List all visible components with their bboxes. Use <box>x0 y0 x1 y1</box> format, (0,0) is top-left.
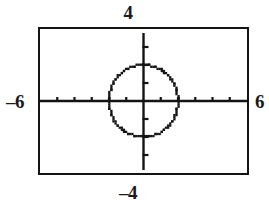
curve-point <box>148 135 150 137</box>
curve-point <box>169 124 171 126</box>
curve-point <box>144 135 146 137</box>
plot-viewing-window <box>38 27 249 175</box>
curve-point <box>171 80 173 82</box>
curve-point <box>142 64 144 66</box>
curve-point <box>167 74 169 76</box>
curve-point <box>121 127 123 129</box>
curve-point <box>152 66 154 68</box>
curve-point <box>177 103 179 105</box>
curve-point <box>112 80 114 82</box>
curve-point <box>171 78 173 80</box>
curve-point <box>117 74 119 76</box>
curve-point <box>175 108 177 110</box>
curve-point <box>112 120 114 122</box>
curve-point <box>154 66 156 68</box>
curve-point <box>110 85 112 87</box>
curve-point <box>159 133 161 135</box>
curve-point <box>156 68 158 70</box>
curve-point <box>146 64 148 66</box>
curve-point <box>135 64 137 66</box>
curve-point <box>161 70 163 72</box>
curve-point <box>140 64 142 66</box>
curve-point <box>108 95 110 97</box>
curve-point <box>148 64 150 66</box>
curve-point <box>175 114 177 116</box>
curve-point <box>173 114 175 116</box>
curve-point <box>110 110 112 112</box>
curve-point <box>175 112 177 114</box>
curve-point <box>175 91 177 93</box>
curve-point <box>108 97 110 99</box>
curve-point <box>163 70 165 72</box>
curve-point <box>154 133 156 135</box>
curve-point <box>117 124 119 126</box>
curve-point <box>159 68 161 70</box>
curve-point <box>175 110 177 112</box>
curve-point <box>131 66 133 68</box>
curve-point <box>161 68 163 70</box>
curve-point <box>140 135 142 137</box>
curve-point <box>173 116 175 118</box>
curve-point <box>119 74 121 76</box>
curve-point <box>129 133 131 135</box>
curve-point <box>167 124 169 126</box>
curve-point <box>175 89 177 91</box>
curve-point <box>129 66 131 68</box>
curve-point <box>173 118 175 120</box>
curve-point <box>171 120 173 122</box>
curve-point <box>165 127 167 129</box>
curve-point <box>114 122 116 124</box>
curve-point <box>138 64 140 66</box>
curve-point <box>156 133 158 135</box>
curve-point <box>150 66 152 68</box>
curve-point <box>167 127 169 129</box>
curve-point <box>108 99 110 101</box>
curve-point <box>144 64 146 66</box>
y-axis-min-label: –4 <box>0 183 269 202</box>
curve-point <box>123 70 125 72</box>
curve-point <box>169 122 171 124</box>
curve-point <box>125 131 127 133</box>
curve-point <box>163 72 165 74</box>
plot-svg <box>40 29 247 173</box>
curve-point <box>146 135 148 137</box>
curve-point <box>110 89 112 91</box>
curve-point <box>127 68 129 70</box>
curve-point <box>127 133 129 135</box>
curve-point <box>123 129 125 131</box>
curve-point <box>163 129 165 131</box>
curve-point <box>161 131 163 133</box>
curve-point <box>112 118 114 120</box>
curve-point <box>177 101 179 103</box>
curve-point <box>150 135 152 137</box>
curve-point <box>177 106 179 108</box>
curve-point <box>135 135 137 137</box>
curve-point <box>173 85 175 87</box>
curve-point <box>152 135 154 137</box>
x-axis-max-label: 6 <box>255 92 264 111</box>
curve-point <box>125 68 127 70</box>
curve-point <box>173 82 175 84</box>
curve-point <box>108 108 110 110</box>
curve-point <box>108 91 110 93</box>
curve-point <box>123 131 125 133</box>
curve-point <box>175 87 177 89</box>
curve-point <box>169 76 171 78</box>
curve-point <box>133 66 135 68</box>
curve-point <box>177 99 179 101</box>
curve-point <box>169 78 171 80</box>
curve-point <box>108 93 110 95</box>
curve-point <box>108 103 110 105</box>
curve-point <box>110 112 112 114</box>
curve-point <box>112 82 114 84</box>
calculator-graph-screenshot: 4 –4 –6 6 <box>0 0 269 204</box>
x-axis-min-label: –6 <box>6 92 24 111</box>
plot-surface <box>40 29 247 173</box>
curve-point <box>177 97 179 99</box>
curve-point <box>117 76 119 78</box>
curve-point <box>119 127 121 129</box>
curve-point <box>108 101 110 103</box>
curve-point <box>114 120 116 122</box>
curve-point <box>175 93 177 95</box>
curve-point <box>108 106 110 108</box>
